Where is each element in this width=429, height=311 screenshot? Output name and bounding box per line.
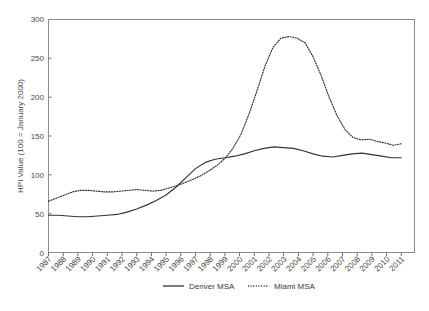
plot-frame: [49, 20, 415, 253]
x-tick-label: 1994: [137, 254, 156, 273]
series-line-denver: [49, 147, 402, 217]
y-axis-title: HPI Value (100 = January 2000): [16, 79, 25, 193]
x-tick-label: 1995: [152, 254, 171, 273]
x-tick-label: 1999: [211, 254, 230, 273]
x-tick-label: 2007: [328, 254, 347, 273]
x-tick-labels: 1987198819891990199119921993199419951996…: [34, 254, 406, 273]
x-tick-label: 2002: [255, 254, 274, 273]
chart-figure: HPI Value (100 = January 2000) 300 250 2…: [0, 0, 429, 311]
x-tick-label: 2009: [358, 254, 377, 273]
y-tick-labels: 300 250 200 150 100 50 0: [31, 15, 45, 258]
x-tick-label: 2011: [388, 254, 407, 273]
x-tick-label: 1996: [167, 254, 186, 273]
x-tick-label: 1997: [181, 254, 200, 273]
legend-label-miami: Miami MSA: [274, 282, 316, 291]
x-tick-label: 1990: [79, 254, 98, 273]
chart-legend: Denver MSA Miami MSA: [163, 282, 316, 291]
y-tick-label: 100: [31, 171, 45, 180]
x-tick-label: 1988: [49, 254, 68, 273]
line-chart-svg: HPI Value (100 = January 2000) 300 250 2…: [0, 0, 429, 311]
legend-label-denver: Denver MSA: [189, 282, 235, 291]
series-line-miami: [49, 37, 402, 202]
x-tick-label: 2000: [226, 254, 245, 273]
x-tick-label: 2001: [240, 254, 259, 273]
x-tick-label: 2010: [373, 254, 392, 273]
x-tick-label: 2008: [343, 254, 362, 273]
y-tick-label: 200: [31, 93, 45, 102]
x-tick-label: 2003: [270, 254, 289, 273]
x-tick-label: 2005: [299, 254, 318, 273]
y-tick-label: 300: [31, 15, 45, 24]
x-tick-label: 1987: [34, 254, 53, 273]
x-tick-label: 1998: [196, 254, 215, 273]
x-tick-label: 2004: [284, 254, 303, 273]
y-tick-label: 150: [31, 132, 45, 141]
x-tick-label: 1991: [93, 254, 112, 273]
x-tick-marks: [49, 253, 402, 257]
x-tick-label: 1993: [123, 254, 142, 273]
x-tick-label: 2006: [314, 254, 333, 273]
y-tick-label: 250: [31, 54, 45, 63]
x-tick-label: 1992: [108, 254, 127, 273]
x-tick-label: 1989: [64, 254, 83, 273]
y-tick-label: 50: [35, 210, 44, 219]
